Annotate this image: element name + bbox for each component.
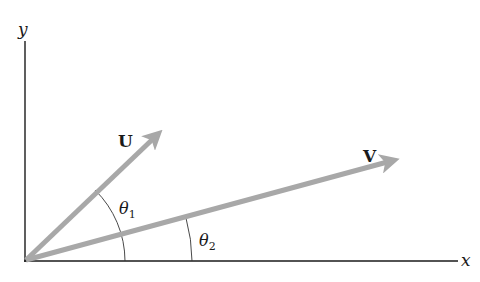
vector-u-label: U: [118, 131, 133, 151]
theta2-arc: [186, 218, 192, 261]
y-axis-label: y: [17, 19, 28, 39]
theta2-label: θ2: [199, 231, 216, 253]
vector-v-label: V: [362, 146, 377, 166]
vector-angle-diagram: y x U V θ1 θ2: [0, 0, 480, 282]
x-axis-label: x: [461, 250, 471, 270]
theta1-label: θ1: [119, 199, 136, 221]
